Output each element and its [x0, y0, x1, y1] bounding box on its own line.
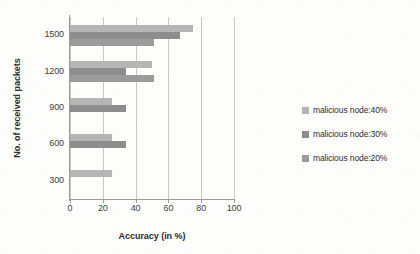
x-axis-title: Accuracy (in %) — [70, 231, 234, 241]
bar-chart-figure: No. of received packets 1500120090060030… — [0, 0, 420, 254]
y-tick-label-1200: 1200 — [24, 66, 64, 76]
bar-900-40 — [70, 98, 112, 105]
bar-1500-20 — [70, 39, 154, 46]
x-tick-label-0: 0 — [55, 203, 85, 213]
x-tick-label-100: 100 — [219, 203, 249, 213]
legend-item[interactable]: malicious node:20% — [302, 152, 387, 164]
legend-label: malicious node:40% — [313, 105, 387, 115]
bar-1500-30 — [70, 32, 180, 39]
legend-label: malicious node:30% — [313, 129, 387, 139]
y-tick-label-600: 600 — [24, 138, 64, 148]
bar-1200-40 — [70, 61, 152, 68]
bar-1200-20 — [70, 75, 154, 82]
x-tick-label-20: 20 — [88, 203, 118, 213]
legend-swatch-icon — [302, 131, 309, 138]
bar-600-40 — [70, 134, 112, 141]
legend-item[interactable]: malicious node:30% — [302, 128, 387, 140]
legend-swatch-icon — [302, 155, 309, 162]
gridline-100 — [234, 17, 235, 199]
bar-1500-40 — [70, 25, 193, 32]
y-axis-title: No. of received packets — [12, 28, 22, 188]
x-tick-label-60: 60 — [153, 203, 183, 213]
y-tick-label-300: 300 — [24, 175, 64, 185]
gridline-60 — [168, 17, 169, 199]
y-tick-label-900: 900 — [24, 102, 64, 112]
bar-900-30 — [70, 105, 126, 112]
bar-1200-30 — [70, 68, 126, 75]
legend-item[interactable]: malicious node:40% — [302, 104, 387, 116]
legend-label: malicious node:20% — [313, 153, 387, 163]
x-tick-label-40: 40 — [121, 203, 151, 213]
legend-swatch-icon — [302, 107, 309, 114]
chart-legend: malicious node:40%malicious node:30%mali… — [302, 104, 387, 176]
bar-300-40 — [70, 170, 112, 177]
x-tick-label-80: 80 — [186, 203, 216, 213]
bar-600-30 — [70, 141, 126, 148]
gridline-80 — [201, 17, 202, 199]
y-tick-label-1500: 1500 — [24, 29, 64, 39]
x-axis-line — [69, 199, 235, 200]
plot-area — [70, 17, 234, 199]
